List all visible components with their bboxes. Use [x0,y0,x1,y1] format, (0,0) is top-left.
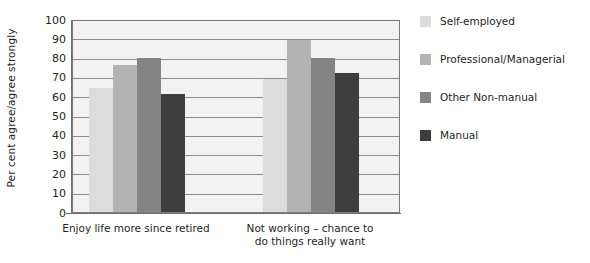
bar [263,79,287,212]
legend-swatch-icon [420,54,431,65]
bar [89,88,113,212]
x-axis-category-label-line: Enjoy life more since retired [36,222,236,235]
x-axis-category-label-line: do things really want [210,235,410,248]
legend-swatch-icon [420,130,431,141]
y-tick-label: 100 [24,15,66,26]
y-axis-title: Per cent agree/agree strongly [0,0,22,215]
bar [137,58,161,212]
legend-swatch-icon [420,16,431,27]
bar [335,73,359,212]
bar [311,58,335,212]
gridline [73,39,399,40]
legend-item[interactable]: Self-employed [420,14,515,28]
bar [161,94,185,212]
x-axis-category-label-line: Not working – chance to [210,222,410,235]
y-tick-label: 50 [24,111,66,122]
y-tick-label: 0 [24,208,66,219]
legend-label: Professional/Managerial [440,53,565,65]
y-tick-label: 30 [24,150,66,161]
legend-item[interactable]: Professional/Managerial [420,52,565,66]
y-tick-label: 60 [24,92,66,103]
x-axis-category-label: Not working – chance todo things really … [210,222,410,248]
gridline [73,59,399,60]
y-axis-title-text: Per cent agree/agree strongly [5,28,17,187]
y-axis-ticks: 1009080706050403020100 [24,12,66,221]
legend-label: Self-employed [440,15,515,27]
x-axis-category-label: Enjoy life more since retired [36,222,236,235]
y-tick-label: 10 [24,188,66,199]
bar [113,65,137,212]
y-tick-label: 90 [24,34,66,45]
y-tick-label: 70 [24,72,66,83]
legend-item[interactable]: Manual [420,128,478,142]
y-tick-label: 40 [24,130,66,141]
y-tick-label: 20 [24,169,66,180]
bar [287,40,311,212]
bar-chart-figure: Per cent agree/agree strongly 1009080706… [0,0,590,263]
legend-item[interactable]: Other Non-manual [420,90,537,104]
legend-label: Other Non-manual [440,91,537,103]
plot-area [72,20,400,213]
legend-swatch-icon [420,92,431,103]
x-axis-line [66,213,401,214]
y-tick-label: 80 [24,53,66,64]
legend-label: Manual [440,129,478,141]
